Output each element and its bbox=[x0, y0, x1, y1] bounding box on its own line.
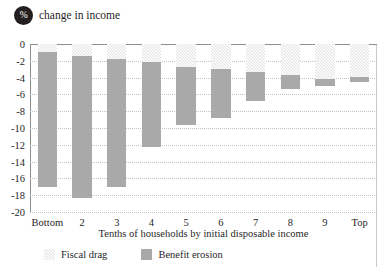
bar-segment-benefit-erosion[interactable] bbox=[211, 69, 230, 118]
gridline bbox=[30, 212, 377, 213]
bar-column[interactable] bbox=[38, 44, 57, 212]
bar-segment-benefit-erosion[interactable] bbox=[142, 62, 161, 148]
legend-item-fiscal-drag: Fiscal drag bbox=[44, 249, 107, 260]
bar-segment-fiscal-drag[interactable] bbox=[350, 44, 369, 77]
bar-column[interactable] bbox=[246, 44, 265, 212]
y-axis-tick-label: -8 bbox=[16, 106, 25, 117]
chart-figure: % change in income 0-2-4-6-8-10-12-14-16… bbox=[0, 0, 385, 270]
bar-segment-benefit-erosion[interactable] bbox=[315, 79, 334, 86]
bar-segment-benefit-erosion[interactable] bbox=[246, 72, 265, 101]
bar-group bbox=[30, 44, 377, 212]
legend-label: Fiscal drag bbox=[61, 249, 107, 260]
y-axis-tick-label: -14 bbox=[11, 156, 25, 167]
legend-item-benefit-erosion: Benefit erosion bbox=[141, 249, 222, 260]
x-axis-title: Tenths of households by initial disposab… bbox=[30, 228, 377, 239]
y-axis-tick-label: -6 bbox=[16, 89, 25, 100]
bar-segment-fiscal-drag[interactable] bbox=[107, 44, 126, 59]
bar-segment-benefit-erosion[interactable] bbox=[107, 59, 126, 187]
y-axis-tick-label: -4 bbox=[16, 72, 25, 83]
bar-column[interactable] bbox=[350, 44, 369, 212]
plot-area: 0-2-4-6-8-10-12-14-16-18-20 Bottom234567… bbox=[30, 44, 377, 212]
x-axis-tick-label: Top bbox=[328, 217, 385, 228]
bar-segment-fiscal-drag[interactable] bbox=[142, 44, 161, 62]
legend-swatch-icon bbox=[44, 249, 55, 260]
bar-segment-benefit-erosion[interactable] bbox=[72, 56, 91, 198]
bar-segment-fiscal-drag[interactable] bbox=[38, 44, 57, 52]
chart-legend: Fiscal drag Benefit erosion bbox=[44, 249, 223, 260]
bar-column[interactable] bbox=[142, 44, 161, 212]
bar-segment-fiscal-drag[interactable] bbox=[315, 44, 334, 79]
chart-title-row: % change in income bbox=[14, 4, 120, 26]
bar-segment-benefit-erosion[interactable] bbox=[281, 75, 300, 88]
y-axis-tick-label: -16 bbox=[11, 173, 25, 184]
y-axis-tick-label: -10 bbox=[11, 123, 25, 134]
bar-segment-fiscal-drag[interactable] bbox=[246, 44, 265, 72]
bar-segment-fiscal-drag[interactable] bbox=[176, 44, 195, 67]
bar-segment-benefit-erosion[interactable] bbox=[176, 67, 195, 126]
bar-segment-fiscal-drag[interactable] bbox=[211, 44, 230, 69]
bar-segment-benefit-erosion[interactable] bbox=[350, 77, 369, 82]
bar-column[interactable] bbox=[72, 44, 91, 212]
y-axis-tick-label: -20 bbox=[11, 207, 25, 218]
bar-column[interactable] bbox=[315, 44, 334, 212]
bar-segment-fiscal-drag[interactable] bbox=[72, 44, 91, 56]
bar-column[interactable] bbox=[211, 44, 230, 212]
y-axis-tick-label: -18 bbox=[11, 190, 25, 201]
chart-title: change in income bbox=[39, 9, 120, 21]
bar-segment-fiscal-drag[interactable] bbox=[281, 44, 300, 75]
bar-segment-benefit-erosion[interactable] bbox=[38, 52, 57, 187]
y-axis-tick-label: -2 bbox=[16, 55, 25, 66]
y-axis-tick-label: 0 bbox=[20, 39, 25, 50]
y-axis-tick-label: -12 bbox=[11, 139, 25, 150]
legend-label: Benefit erosion bbox=[158, 249, 222, 260]
percent-badge-icon: % bbox=[14, 6, 33, 25]
legend-swatch-icon bbox=[141, 249, 152, 260]
bar-column[interactable] bbox=[176, 44, 195, 212]
bar-column[interactable] bbox=[107, 44, 126, 212]
bar-column[interactable] bbox=[281, 44, 300, 212]
